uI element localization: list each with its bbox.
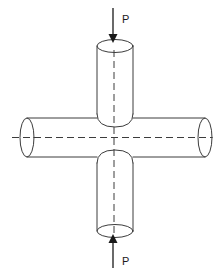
centerlines [12, 50, 212, 236]
arrow-up-head [109, 234, 118, 243]
arrow-down-head [109, 34, 118, 43]
vertical-cylinder-upper-top-cap [97, 40, 133, 53]
top-load-label: P [122, 13, 129, 25]
diagram-canvas: P P [0, 0, 221, 275]
arrow-down-icon [109, 8, 118, 43]
vertical-cylinder-lower-bottom-cap [97, 225, 133, 238]
vertical-cylinder-lower [97, 150, 133, 238]
crossed-cylinders-diagram: P P [0, 0, 221, 275]
bottom-load-label: P [122, 255, 129, 267]
vertical-cylinder-lower-saddle [97, 150, 133, 163]
arrow-up-icon [109, 234, 118, 268]
vertical-cylinder-upper-saddle [97, 114, 133, 127]
vertical-cylinder-upper [97, 40, 133, 128]
